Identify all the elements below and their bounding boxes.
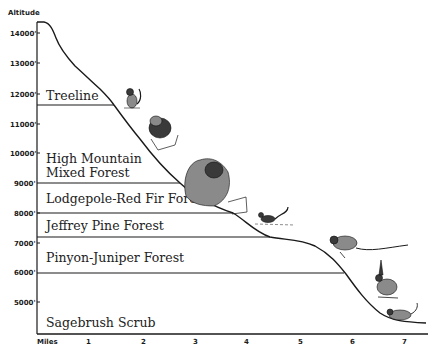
y-tick-6000: 6000' [14,269,36,277]
y-axis [37,22,40,334]
y-tick-5000: 5000' [14,299,36,307]
y-tick-14000: 14000' [10,30,37,38]
zone-label-high-mountain-1: High Mountain [46,151,142,166]
y-tick-10000: 10000' [10,150,37,158]
y-tick-11000: 11000' [10,121,37,129]
altitude-diagram: Altitude 14000' 13000' 12000' 11000' 100… [0,0,435,359]
chipmunk-alpine-icon [124,89,141,109]
x-tick-3: 3 [193,338,198,346]
zone-label-sagebrush: Sagebrush Scrub [46,315,155,330]
x-tick-7: 7 [402,338,407,346]
zone-label-treeline: Treeline [46,88,99,103]
y-tick-9000: 9000' [14,180,36,188]
zone-labels: Treeline High Mountain Mixed Forest Lodg… [44,88,208,330]
zone-label-lodgepole: Lodgepole-Red Fir Forest [46,191,208,206]
jackrabbit-icon [376,260,399,298]
x-tick-2: 2 [141,338,146,346]
zone-label-high-mountain-2: Mixed Forest [46,165,130,180]
zone-label-jeffrey-pine: Jeffrey Pine Forest [44,218,164,233]
ground-squirrel-icon [387,303,417,320]
x-tick-6: 6 [350,338,355,346]
y-tick-7000: 7000' [14,240,36,248]
x-axis-ticks: Miles 1 2 3 4 5 6 7 [37,338,407,346]
y-tick-12000: 12000' [10,91,37,99]
y-tick-8000: 8000' [14,210,36,218]
y-tick-13000: 13000' [10,60,37,68]
woodrat-icon [330,236,408,258]
y-axis-label: Altitude [8,9,40,17]
chipmunk-icon [255,207,295,225]
x-tick-1: 1 [86,338,91,346]
x-tick-5: 5 [298,338,303,346]
y-axis-ticks: 14000' 13000' 12000' 11000' 10000' 9000'… [10,30,37,307]
x-tick-4: 4 [244,338,249,346]
x-axis-label: Miles [37,338,58,346]
zone-label-pinyon-juniper: Pinyon-Juniper Forest [46,250,184,265]
pika-icon [149,116,178,150]
